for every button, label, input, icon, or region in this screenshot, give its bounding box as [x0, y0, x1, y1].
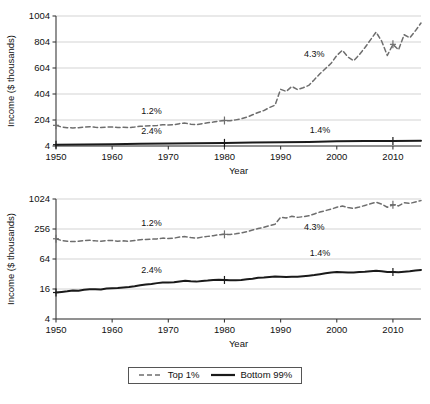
svg-text:256: 256	[34, 223, 50, 234]
annotation-label: 1.2%	[141, 106, 162, 116]
y-tick-labels: 416642561024	[29, 193, 56, 324]
svg-text:404: 404	[34, 88, 50, 99]
annotation-label: 4.3%	[304, 222, 325, 232]
x-axis-title: Year	[229, 165, 248, 176]
y-tick-labels: 42044046048041004	[29, 10, 56, 151]
svg-text:1004: 1004	[29, 10, 50, 21]
svg-text:2010: 2010	[382, 151, 403, 162]
svg-text:1960: 1960	[102, 324, 123, 335]
svg-text:16: 16	[39, 283, 50, 294]
series-line-top1	[56, 201, 421, 242]
chart-svg-bottom-panel: 4166425610241950196019701980199020002010…	[0, 183, 430, 363]
y-axis-title: Income ($ thousands)	[5, 213, 16, 305]
chart-panel-linear: 4204404604804100419501960197019801990200…	[0, 0, 430, 190]
svg-text:204: 204	[34, 114, 50, 125]
legend-swatch-solid	[210, 370, 236, 380]
legend-label-bottom99: Bottom 99%	[240, 370, 292, 380]
annotation-label: 1.4%	[310, 125, 331, 135]
legend: Top 1% Bottom 99%	[0, 360, 430, 390]
annotation-label: 2.4%	[141, 265, 162, 275]
annotation-label: 4.3%	[304, 49, 325, 59]
y-axis-title: Income ($ thousands)	[5, 35, 16, 127]
svg-text:1024: 1024	[29, 193, 50, 204]
series-line-top1	[56, 23, 421, 128]
svg-text:2010: 2010	[382, 324, 403, 335]
svg-text:4: 4	[45, 313, 50, 324]
legend-box: Top 1% Bottom 99%	[128, 367, 302, 384]
legend-entry-bottom99: Bottom 99%	[210, 370, 292, 380]
gridlines	[56, 199, 421, 319]
income-inequality-figure: 4204404604804100419501960197019801990200…	[0, 0, 430, 404]
svg-text:1990: 1990	[270, 324, 291, 335]
svg-text:1990: 1990	[270, 151, 291, 162]
svg-text:1950: 1950	[45, 151, 66, 162]
x-tick-labels: 1950196019701980199020002010	[45, 319, 403, 335]
annotation-label: 1.2%	[141, 218, 162, 228]
chart-svg-top-panel: 4204404604804100419501960197019801990200…	[0, 0, 430, 190]
svg-text:1970: 1970	[158, 151, 179, 162]
series-line-bottom99	[56, 141, 421, 145]
annotations: 1.2%2.4%4.3%1.4%	[141, 49, 330, 136]
svg-text:1950: 1950	[45, 324, 66, 335]
annotation-label: 1.4%	[310, 248, 331, 258]
annotations: 1.2%2.4%4.3%1.4%	[141, 218, 330, 275]
legend-entry-top1: Top 1%	[138, 370, 200, 380]
legend-label-top1: Top 1%	[168, 370, 200, 380]
x-tick-labels: 1950196019701980199020002010	[45, 146, 403, 162]
chart-panel-log: 4166425610241950196019701980199020002010…	[0, 183, 430, 363]
svg-text:1960: 1960	[102, 151, 123, 162]
svg-text:2000: 2000	[326, 151, 347, 162]
svg-text:4: 4	[45, 140, 50, 151]
svg-text:1980: 1980	[214, 324, 235, 335]
legend-swatch-dashed	[138, 370, 164, 380]
svg-text:604: 604	[34, 62, 50, 73]
svg-text:64: 64	[39, 253, 50, 264]
svg-text:1980: 1980	[214, 151, 235, 162]
svg-text:804: 804	[34, 36, 50, 47]
svg-text:1970: 1970	[158, 324, 179, 335]
annotation-label: 2.4%	[141, 126, 162, 136]
x-axis-title: Year	[229, 338, 248, 349]
svg-text:2000: 2000	[326, 324, 347, 335]
